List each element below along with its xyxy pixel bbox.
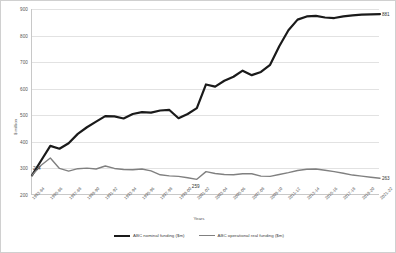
- series-lines: [32, 9, 380, 195]
- plot-frame: 200300400500600700800900 214259881263: [31, 9, 379, 195]
- x-axis-tick-label: 2021-22: [379, 186, 393, 200]
- legend-label: ABC operational real funding ($m): [218, 233, 284, 238]
- legend-item[interactable]: ABC nominal funding ($m): [114, 233, 185, 238]
- x-axis-title: Years: [1, 216, 396, 221]
- y-axis-tick-label: 300: [20, 166, 28, 171]
- y-axis-tick-label: 900: [20, 7, 28, 12]
- chart-container: $ million 200300400500600700800900 21425…: [0, 0, 396, 253]
- data-point-label: 259: [192, 184, 200, 189]
- series-line: [32, 158, 380, 179]
- plot-area: [31, 9, 379, 195]
- chart-legend: ABC nominal funding ($m)ABC operational …: [1, 233, 396, 238]
- y-axis-tick-label: 400: [20, 139, 28, 144]
- y-axis-tick-label: 200: [20, 193, 28, 198]
- y-axis-tick-label: 700: [20, 60, 28, 65]
- series-line: [32, 14, 380, 175]
- legend-line-icon: [114, 235, 130, 237]
- data-point-label: 214: [33, 166, 41, 171]
- legend-item[interactable]: ABC operational real funding ($m): [199, 233, 284, 238]
- data-point-label: 881: [382, 12, 390, 17]
- data-point-label: 263: [382, 176, 390, 181]
- y-axis-tick-label: 600: [20, 86, 28, 91]
- y-axis-title: $ million: [13, 118, 18, 134]
- y-axis-tick-label: 800: [20, 33, 28, 38]
- legend-label: ABC nominal funding ($m): [133, 233, 185, 238]
- legend-line-icon: [199, 235, 215, 236]
- y-axis-tick-label: 500: [20, 113, 28, 118]
